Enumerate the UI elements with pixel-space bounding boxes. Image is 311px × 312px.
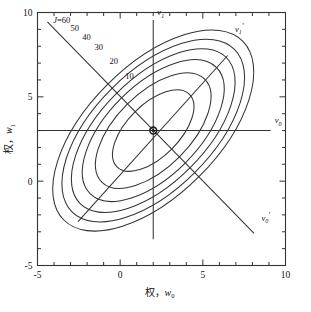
x-tick-label: -5 [34, 270, 42, 280]
x-tick-label: 10 [281, 270, 291, 280]
contour-label-60: J=60 [53, 15, 70, 25]
eigen-label-v0: v0 [275, 115, 282, 127]
y-tick-label: -5 [25, 261, 33, 271]
x-tick-label: 0 [118, 270, 123, 280]
contour-figure: -50510-505101020304050J=60v0v1v1′v0′权，w0… [0, 0, 311, 312]
x-tick-label: 5 [200, 270, 205, 280]
contour-label-40: 40 [82, 32, 91, 42]
eigen-label-v1: v1 [157, 7, 164, 19]
svg-text:权，w1: 权，w1 [2, 124, 16, 154]
y-tick-label: 0 [28, 177, 33, 187]
y-axis-title: 权，w1 [2, 124, 16, 154]
contour-label-50: 50 [71, 23, 80, 33]
eigen-label-v0prime: v0′ [262, 211, 271, 224]
contour-label-10: 10 [125, 71, 134, 81]
y-tick-label: 10 [23, 8, 33, 18]
x-axis-title: 权，w0 [145, 286, 175, 300]
tick-labels: -50510-50510 [23, 8, 291, 280]
axis-titles: 权，w0权，w1 [2, 124, 174, 299]
contour-label-30: 30 [95, 42, 104, 52]
eigen-label-v1prime: v1′ [235, 22, 244, 35]
y-tick-label: 5 [28, 92, 33, 102]
eigen-axis-labels: v0v1v1′v0′ [157, 7, 281, 224]
contour-plot-svg: -50510-505101020304050J=60v0v1v1′v0′权，w0… [0, 0, 311, 312]
contour-label-20: 20 [109, 56, 118, 66]
